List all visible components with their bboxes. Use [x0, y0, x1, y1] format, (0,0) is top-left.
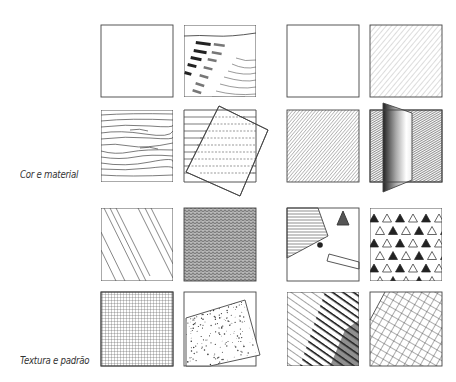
stipple-dot — [257, 328, 258, 329]
stipple-dot — [257, 333, 258, 334]
triangle-mark — [402, 277, 411, 285]
stipple-dot — [193, 319, 194, 320]
stipple-dot — [227, 320, 228, 321]
stipple-dot — [247, 362, 248, 363]
stipple-dot — [222, 303, 223, 304]
stipple-dot — [185, 351, 186, 352]
stipple-dot — [249, 328, 250, 329]
stipple-dot — [195, 322, 196, 323]
stipple-dot — [210, 311, 211, 312]
triangle-mark — [435, 214, 444, 222]
stipple-dot — [186, 312, 187, 313]
stipple-dot — [240, 351, 241, 352]
stipple-dot — [236, 306, 237, 307]
stipple-dot — [217, 302, 219, 304]
stipple-dot — [213, 357, 214, 358]
triangle-mark — [428, 252, 437, 260]
triangle-mark — [428, 227, 437, 235]
stipple-dot — [221, 317, 222, 318]
stipple-dot — [202, 301, 203, 302]
stipple-dot — [190, 333, 191, 334]
stipple-dot — [240, 354, 241, 355]
stipple-dot — [213, 310, 214, 311]
stipple-dot — [185, 310, 186, 311]
panel-dense-texture — [184, 208, 256, 281]
stipple-dot — [217, 357, 218, 358]
stipple-dot — [232, 342, 233, 343]
stipple-dot — [193, 324, 194, 325]
rectangle-shape — [327, 254, 359, 269]
stipple-dot — [211, 302, 212, 303]
stipple-dot — [257, 358, 258, 359]
stipple-dot — [220, 302, 221, 303]
stipple-dot — [241, 304, 242, 305]
stipple-dot — [190, 299, 191, 300]
stipple-dot — [233, 307, 234, 308]
stipple-dot — [218, 332, 220, 334]
stipple-dot — [259, 342, 260, 343]
stipple-dot — [187, 323, 188, 324]
stipple-dot — [225, 343, 226, 344]
panel-fine-grid — [101, 292, 173, 366]
stipple-dot — [210, 325, 211, 326]
stipple-dot — [250, 342, 251, 343]
stipple-dot — [257, 303, 258, 304]
triangle-mark — [415, 277, 424, 285]
stipple-dot — [219, 308, 220, 309]
stipple-dot — [231, 323, 232, 324]
stipple-dot — [210, 342, 211, 343]
stipple-dot — [250, 312, 251, 313]
stipple-dot — [202, 343, 203, 344]
triangle-mark — [370, 239, 379, 247]
stipple-dot — [258, 310, 259, 311]
stipple-dot — [217, 323, 218, 324]
stipple-dot — [234, 346, 235, 347]
stipple-dot — [257, 339, 258, 340]
stipple-dot — [202, 328, 203, 329]
stipple-dot — [214, 355, 215, 356]
stipple-dot — [215, 344, 216, 345]
panel-stipple-rotated — [183, 292, 260, 366]
stipple-dot — [252, 316, 253, 317]
stipple-dot — [190, 361, 191, 362]
stipple-dot — [253, 304, 254, 305]
stipple-dot — [194, 298, 195, 299]
stipple-dot — [260, 299, 261, 300]
stipple-dot — [219, 314, 220, 315]
stipple-dot — [196, 352, 197, 353]
stipple-dot — [195, 360, 196, 361]
stipple-dot — [191, 350, 193, 352]
panel-brick-perspective — [184, 25, 256, 98]
stipple-dot — [254, 309, 255, 310]
dot-shape — [317, 242, 323, 248]
brick-rows — [184, 41, 211, 76]
stipple-dot — [253, 305, 254, 306]
triangle-mark — [370, 264, 379, 272]
panel-gradient-plane — [370, 103, 442, 192]
stipple-dot — [197, 302, 198, 303]
triangle-mark — [376, 227, 385, 235]
triangle-mark — [389, 227, 398, 235]
stipple-dot — [244, 321, 245, 322]
stipple-dot — [210, 333, 211, 334]
stipple-dot — [190, 318, 191, 319]
stipple-dot — [207, 299, 208, 300]
stipple-dot — [201, 318, 202, 319]
stipple-dot — [227, 312, 228, 313]
stipple-dot — [217, 303, 219, 305]
stipple-dot — [221, 313, 222, 314]
stipple-dot — [235, 346, 236, 347]
stipple-dot — [202, 309, 203, 310]
triangle-mark — [383, 264, 392, 272]
stipple-dot — [235, 346, 237, 348]
triangle-mark — [396, 264, 405, 272]
stipple-dot — [254, 300, 255, 301]
stipple-dot — [220, 347, 221, 348]
stipple-dot — [242, 321, 243, 322]
stipple-dot — [209, 304, 210, 305]
stipple-dot — [258, 340, 259, 341]
triangle-mark — [383, 239, 392, 247]
stipple-dot — [191, 357, 192, 358]
stipple-dot — [191, 341, 193, 343]
stipple-dot — [231, 315, 232, 316]
